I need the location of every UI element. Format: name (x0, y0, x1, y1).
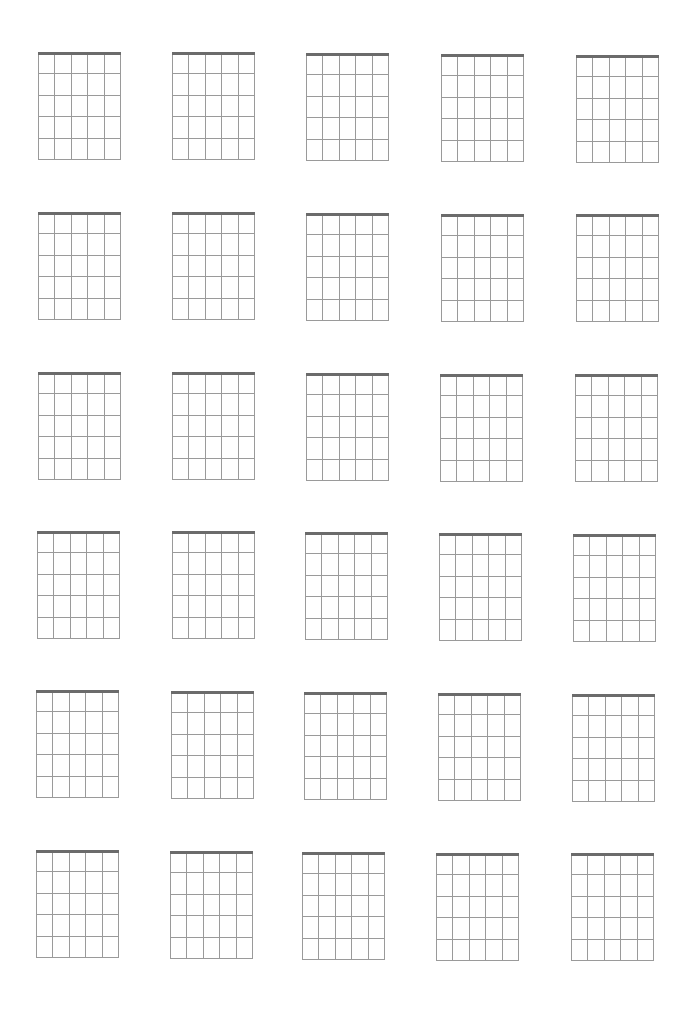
nut-bar (36, 850, 119, 853)
chord-diagram (38, 53, 120, 160)
nut-bar (306, 213, 389, 216)
nut-bar (572, 694, 655, 697)
chord-diagram (576, 56, 658, 163)
chord-diagram (38, 213, 120, 320)
chord-diagram (440, 375, 522, 482)
nut-bar (576, 55, 659, 58)
nut-bar (171, 691, 254, 694)
fretboard-grid (172, 53, 254, 160)
fretboard-grid (572, 695, 654, 802)
fretboard-grid (306, 214, 388, 321)
nut-bar (302, 852, 385, 855)
fretboard-grid (38, 373, 120, 480)
fretboard-grid (436, 854, 518, 961)
nut-bar (172, 52, 255, 55)
chord-diagram (441, 215, 523, 322)
nut-bar (36, 690, 119, 693)
nut-bar (38, 372, 121, 375)
nut-bar (170, 851, 253, 854)
chord-diagram (306, 54, 388, 161)
chord-diagram (306, 374, 388, 481)
chord-diagram (172, 53, 254, 160)
fretboard-grid (441, 215, 523, 322)
nut-bar (438, 693, 521, 696)
chord-diagram (36, 851, 118, 958)
nut-bar (436, 853, 519, 856)
nut-bar (576, 214, 659, 217)
fretboard-grid (172, 213, 254, 320)
nut-bar (306, 373, 389, 376)
fretboard-grid (37, 532, 119, 639)
chord-diagram (170, 852, 252, 959)
nut-bar (38, 52, 121, 55)
nut-bar (305, 532, 388, 535)
fretboard-grid (438, 694, 520, 801)
fretboard-grid (36, 851, 118, 958)
nut-bar (441, 54, 524, 57)
chord-diagram (172, 532, 254, 639)
chord-diagram (172, 213, 254, 320)
chord-diagram (441, 55, 523, 162)
chord-diagram (305, 533, 387, 640)
fretboard-grid (439, 534, 521, 641)
fretboard-grid (440, 375, 522, 482)
chord-diagram (172, 373, 254, 480)
fretboard-grid (575, 375, 657, 482)
chord-diagram (306, 214, 388, 321)
fretboard-grid (302, 853, 384, 960)
nut-bar (37, 531, 120, 534)
nut-bar (571, 853, 654, 856)
fretboard-grid (306, 374, 388, 481)
chord-diagram (38, 373, 120, 480)
nut-bar (172, 212, 255, 215)
chord-diagram (439, 534, 521, 641)
chord-diagram (576, 215, 658, 322)
nut-bar (440, 374, 523, 377)
chord-diagram (37, 532, 119, 639)
fretboard-grid (304, 693, 386, 800)
fretboard-grid (306, 54, 388, 161)
nut-bar (441, 214, 524, 217)
fretboard-grid (172, 532, 254, 639)
chord-diagram (438, 694, 520, 801)
fretboard-grid (36, 691, 118, 798)
nut-bar (575, 374, 658, 377)
chord-diagram (436, 854, 518, 961)
chord-diagram (575, 375, 657, 482)
chord-diagram (302, 853, 384, 960)
nut-bar (172, 531, 255, 534)
fretboard-grid (576, 56, 658, 163)
chord-diagram (573, 535, 655, 642)
chord-diagram (304, 693, 386, 800)
fretboard-grid (170, 852, 252, 959)
nut-bar (306, 53, 389, 56)
nut-bar (573, 534, 656, 537)
nut-bar (439, 533, 522, 536)
fretboard-grid (305, 533, 387, 640)
nut-bar (38, 212, 121, 215)
fretboard-grid (576, 215, 658, 322)
chord-diagram (171, 692, 253, 799)
fretboard-grid (38, 213, 120, 320)
fretboard-grid (441, 55, 523, 162)
fretboard-grid (171, 692, 253, 799)
fretboard-grid (172, 373, 254, 480)
chord-diagram (571, 854, 653, 961)
fretboard-grid (571, 854, 653, 961)
fretboard-grid (573, 535, 655, 642)
nut-bar (172, 372, 255, 375)
chord-chart-sheet (0, 0, 690, 1012)
chord-diagram (36, 691, 118, 798)
fretboard-grid (38, 53, 120, 160)
chord-diagram (572, 695, 654, 802)
nut-bar (304, 692, 387, 695)
